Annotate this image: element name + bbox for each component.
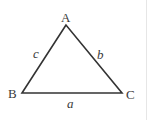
vertex-label-b: B — [8, 86, 17, 101]
side-label-a: a — [67, 96, 74, 111]
vertex-label-c: C — [126, 87, 135, 102]
vertex-label-a: A — [61, 10, 71, 25]
side-label-c: c — [33, 46, 39, 61]
side-label-b: b — [97, 47, 104, 62]
triangle-diagram: A B C c b a — [0, 0, 148, 120]
